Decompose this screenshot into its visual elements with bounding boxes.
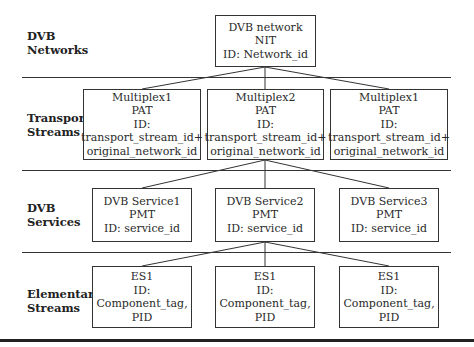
node-service-1: DVB Service1 PMT ID: service_id: [92, 188, 192, 242]
node-text: Component_tag,: [343, 297, 434, 311]
node-multiplex-3: Multiplex1 PAT ID: transport_stream_id+ …: [330, 89, 448, 160]
node-text: ID:: [381, 118, 398, 132]
node-text: ES1: [131, 270, 154, 284]
node-text: ID: service_id: [227, 222, 303, 236]
edge-service2-es-right: [265, 242, 389, 266]
node-es-1: ES1 ID: Component_tag, PID: [92, 266, 192, 328]
node-text: original_network_id: [334, 145, 445, 159]
node-text: Multiplex1: [359, 91, 419, 105]
node-text: DVB Service1: [104, 195, 181, 209]
node-text: ID:: [134, 284, 151, 298]
node-text: PAT: [378, 104, 399, 118]
layer-label-dvb-services: DVB Services: [27, 201, 81, 229]
node-text: transport_stream_id+: [81, 131, 203, 145]
node-text: DVB Service2: [227, 195, 304, 209]
edge-mux2-service1: [142, 160, 265, 188]
node-multiplex-2: Multiplex2 PAT ID: transport_stream_id+ …: [207, 89, 324, 160]
node-es-2: ES1 ID: Component_tag, PID: [215, 266, 315, 328]
node-service-2: DVB Service2 PMT ID: service_id: [215, 188, 315, 242]
node-text: transport_stream_id+: [205, 131, 327, 145]
label-line: DVB: [27, 201, 81, 215]
label-line: Networks: [27, 43, 88, 57]
node-text: ID:: [257, 284, 274, 298]
node-text: NIT: [255, 34, 276, 48]
node-text: Multiplex2: [235, 91, 295, 105]
node-text: ID:: [257, 118, 274, 132]
layer-divider-1: [22, 77, 451, 78]
node-text: PMT: [376, 208, 402, 222]
layer-label-dvb-networks: DVB Networks: [27, 29, 88, 57]
node-text: ES1: [378, 270, 401, 284]
node-text: PMT: [252, 208, 278, 222]
edge-service2-es-left: [142, 242, 265, 266]
layer-divider-3: [22, 252, 451, 253]
node-text: original_network_id: [87, 145, 198, 159]
node-text: DVB Service3: [351, 195, 428, 209]
node-text: ID:: [381, 284, 398, 298]
label-line: Services: [27, 215, 81, 229]
node-dvb-network: DVB network NIT ID: Network_id: [215, 15, 316, 67]
node-service-3: DVB Service3 PMT ID: service_id: [339, 188, 439, 242]
node-text: ES1: [254, 270, 277, 284]
label-line: Transport: [27, 111, 90, 125]
edge-mux2-service3: [265, 160, 389, 188]
node-text: ID:: [134, 118, 151, 132]
edge-network-mux1: [142, 67, 265, 89]
node-text: Component_tag,: [219, 297, 310, 311]
label-line: Elementary: [27, 287, 101, 301]
node-multiplex-1: Multiplex1 PAT ID: transport_stream_id+ …: [83, 89, 201, 160]
node-text: DVB network: [228, 21, 302, 35]
node-es-3: ES1 ID: Component_tag, PID: [339, 266, 439, 328]
node-text: PID: [255, 311, 276, 325]
layer-divider-2: [22, 170, 451, 171]
node-text: Multiplex1: [112, 91, 172, 105]
node-text: original_network_id: [210, 145, 321, 159]
label-line: DVB: [27, 29, 88, 43]
node-text: PID: [379, 311, 400, 325]
node-text: PAT: [255, 104, 276, 118]
bottom-rule: [0, 339, 474, 342]
node-text: ID: service_id: [351, 222, 427, 236]
node-text: transport_stream_id+: [328, 131, 450, 145]
label-line: Streams: [27, 301, 101, 315]
node-text: Component_tag,: [96, 297, 187, 311]
layer-label-elementary-streams: Elementary Streams: [27, 287, 101, 315]
node-text: PMT: [129, 208, 155, 222]
node-text: PID: [132, 311, 153, 325]
node-text: ID: Network_id: [223, 48, 308, 62]
node-text: ID: service_id: [104, 222, 180, 236]
edge-network-mux3: [265, 67, 389, 89]
node-text: PAT: [131, 104, 152, 118]
